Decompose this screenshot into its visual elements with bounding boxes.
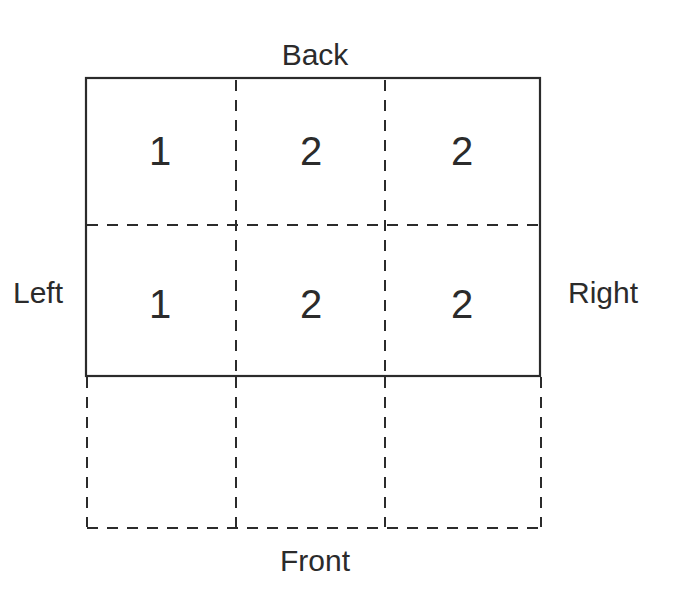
cell-r1-c2: 2 (300, 129, 322, 173)
cell-r2-c2: 2 (300, 282, 322, 326)
cell-r2-c1: 1 (149, 282, 171, 326)
solid-boundary (86, 78, 540, 376)
cell-r1-c1: 1 (149, 129, 171, 173)
grid-diagram: Back Left Right Front 1 2 2 1 2 2 (0, 0, 682, 593)
dashed-extension-row (87, 377, 541, 528)
label-left: Left (13, 276, 64, 309)
label-front: Front (280, 544, 351, 577)
label-back: Back (282, 38, 350, 71)
cell-r2-c3: 2 (451, 282, 473, 326)
label-right: Right (568, 276, 639, 309)
cell-r1-c3: 2 (451, 129, 473, 173)
